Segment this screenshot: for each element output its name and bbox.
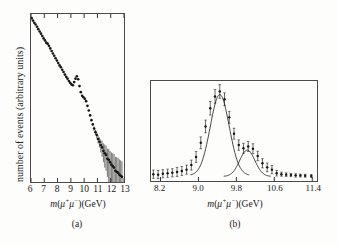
panel-b-xaxis-title: m(μ+μ−)(GeV) — [175, 199, 295, 209]
data-point — [34, 23, 37, 26]
data-point — [310, 175, 312, 177]
panel-a-caption: (a) — [37, 219, 117, 229]
data-point — [93, 127, 96, 130]
data-point — [77, 78, 80, 81]
data-point — [204, 125, 206, 127]
data-point — [252, 148, 254, 150]
panel-a-yaxis-title: number of events (arbitrary units) — [14, 47, 25, 182]
xtick-label: 6 — [28, 184, 33, 194]
fit-curve-1 — [190, 95, 249, 175]
xtick-label: 12 — [107, 184, 117, 194]
xtick-label: 9 — [68, 184, 73, 194]
data-point — [214, 95, 216, 97]
data-point — [83, 97, 86, 100]
data-point — [54, 57, 57, 60]
data-point — [48, 45, 51, 48]
data-point — [86, 105, 89, 108]
data-point — [223, 98, 225, 100]
xtick-label: 10.6 — [267, 183, 283, 193]
data-point — [299, 174, 301, 176]
data-point — [97, 138, 100, 141]
xtick-label: 9.8 — [231, 183, 242, 193]
data-point — [95, 134, 98, 137]
panel-b-caption: (b) — [195, 219, 275, 229]
data-point — [91, 123, 94, 126]
data-point — [238, 144, 240, 146]
data-point — [94, 131, 97, 134]
data-point — [190, 164, 192, 166]
data-point — [109, 161, 112, 164]
data-point — [181, 170, 183, 172]
data-point — [66, 77, 69, 80]
data-point — [85, 100, 88, 103]
xtick-label: 8.2 — [154, 183, 165, 193]
data-point — [280, 173, 282, 175]
panel-a-xaxis-title: m(μ+μ−)(GeV) — [18, 199, 138, 209]
data-point — [37, 28, 40, 31]
data-point — [56, 59, 59, 62]
data-point — [76, 75, 79, 78]
data-point — [78, 85, 81, 88]
data-point — [98, 140, 101, 143]
data-point — [294, 174, 296, 176]
data-point — [62, 71, 65, 74]
data-point — [195, 156, 197, 158]
panel-a-xtick-labels: 678910111213 — [30, 184, 125, 198]
xtick-label: 11 — [93, 184, 102, 194]
figure-dimuon-mass-spectrum: 678910111213 m(μ+μ−)(GeV) number of even… — [0, 0, 338, 244]
data-point — [228, 116, 230, 118]
panel-a-canvas — [31, 14, 124, 182]
data-point — [275, 172, 277, 174]
xtick-label: 9.0 — [192, 183, 203, 193]
data-point — [242, 147, 244, 149]
data-point — [261, 162, 263, 164]
xtick-label: 10 — [80, 184, 90, 194]
data-point — [53, 54, 56, 57]
data-point — [102, 150, 105, 153]
data-point — [87, 109, 90, 112]
data-point — [50, 50, 53, 53]
data-point — [61, 68, 64, 71]
data-point — [219, 90, 221, 92]
data-point — [271, 168, 273, 170]
panel-b-plot-area — [150, 80, 318, 182]
data-point — [60, 66, 63, 69]
panel-a-data-series — [31, 17, 123, 182]
data-point — [290, 174, 292, 176]
data-point — [72, 84, 75, 87]
data-point — [200, 142, 202, 144]
data-point — [209, 107, 211, 109]
data-point — [74, 77, 77, 80]
xtick-label: 13 — [120, 184, 130, 194]
data-point — [49, 47, 52, 50]
data-point — [36, 25, 39, 28]
data-point — [40, 32, 43, 35]
data-point — [121, 176, 124, 179]
data-point — [247, 145, 249, 147]
data-point — [64, 73, 67, 76]
data-point — [79, 91, 82, 94]
data-point — [233, 133, 235, 135]
data-point — [41, 35, 44, 38]
panel-b-canvas — [151, 81, 317, 181]
xtick-label: 7 — [41, 184, 46, 194]
data-point — [171, 172, 173, 174]
data-point — [266, 166, 268, 168]
data-point — [185, 168, 187, 170]
data-point — [166, 172, 168, 174]
data-point — [99, 144, 102, 147]
xtick-label: 8 — [55, 184, 60, 194]
data-point — [176, 171, 178, 173]
data-point — [304, 175, 306, 177]
xtick-label: 11.4 — [305, 183, 320, 193]
data-point — [157, 173, 159, 175]
data-point — [285, 173, 287, 175]
data-point — [31, 17, 33, 20]
data-point — [113, 166, 116, 169]
data-point — [52, 52, 55, 55]
data-point — [152, 173, 154, 175]
data-point — [89, 114, 92, 117]
data-point — [73, 81, 76, 84]
data-point — [162, 173, 164, 175]
panel-b-xtick-labels: 8.29.09.810.611.4 — [150, 183, 318, 197]
